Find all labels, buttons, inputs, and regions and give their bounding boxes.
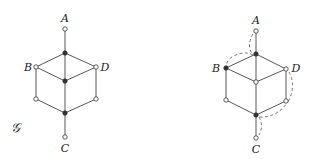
edge-lowerleft-bottom — [226, 100, 256, 115]
node-lower-left — [224, 98, 228, 102]
edge-b-center — [36, 67, 65, 81]
node-b — [224, 66, 228, 70]
edge-d-center — [256, 69, 286, 82]
edge-top-b — [36, 53, 65, 67]
graph-label: 𝒢 — [11, 120, 23, 135]
label-c: C — [61, 142, 70, 155]
edge-top-b — [226, 54, 256, 68]
node-d — [94, 65, 98, 69]
edge-lowerright-bottom — [65, 99, 96, 113]
node-center — [254, 80, 258, 84]
label-a: A — [251, 14, 260, 27]
label-c: C — [252, 143, 261, 156]
node-d — [284, 67, 288, 71]
left-graph: A B D C 𝒢 — [11, 12, 110, 155]
right-graph: A B D C — [211, 14, 301, 156]
node-lower-left — [34, 97, 38, 101]
edge-top-d — [65, 53, 96, 67]
node-c — [254, 136, 258, 140]
dashed-path-d-lowerright — [289, 72, 293, 100]
node-center — [63, 79, 67, 83]
node-c — [63, 135, 67, 139]
node-lower-right — [284, 99, 288, 103]
dashed-path-a-top — [250, 34, 254, 55]
node-b — [34, 65, 38, 69]
diagram-canvas: A B D C 𝒢 A B D C — [0, 0, 317, 159]
edge-top-d — [256, 54, 286, 69]
node-lower-right — [94, 97, 98, 101]
edge-d-center — [65, 67, 96, 81]
label-a: A — [60, 12, 69, 25]
label-d: D — [291, 62, 301, 75]
node-top — [254, 52, 258, 56]
dashed-path-bottom-c — [259, 117, 262, 135]
label-b: B — [23, 61, 32, 74]
node-a — [254, 29, 258, 33]
edge-lowerleft-bottom — [36, 99, 65, 113]
node-bottom — [63, 111, 67, 115]
node-top — [63, 51, 67, 55]
label-b: B — [211, 62, 220, 75]
edge-b-center — [226, 68, 256, 82]
node-bottom — [254, 113, 258, 117]
label-d: D — [100, 61, 110, 74]
edge-lowerright-bottom — [256, 101, 286, 115]
node-a — [63, 27, 67, 31]
